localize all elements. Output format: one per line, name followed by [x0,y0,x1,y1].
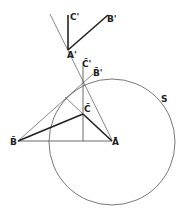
geometry-diagram: C' B' A' C̄' B̄' C̄ B̄ Ā S [0,0,185,213]
label-b-prime: B' [107,14,117,24]
line-through-a-prime [50,14,112,140]
label-a-bar: Ā [112,137,119,147]
label-c-bar-prime: C̄' [82,58,91,69]
diagram-canvas: C' B' A' C̄' B̄' C̄ B̄ Ā S [0,0,185,213]
label-circle-s: S [161,94,167,104]
label-a-prime: A' [67,50,77,60]
perpendicular-c-bar [65,97,83,114]
label-c-bar: C̄ [84,103,91,114]
line-b-bar-b-bar-prime [18,74,93,141]
segment-c-bar-a-bar [83,114,112,141]
label-b-bar-prime: B̄' [93,67,103,78]
label-b-bar: B̄ [10,136,17,147]
segment-b-bar-c-bar [18,114,83,141]
label-c-prime: C' [70,12,79,22]
